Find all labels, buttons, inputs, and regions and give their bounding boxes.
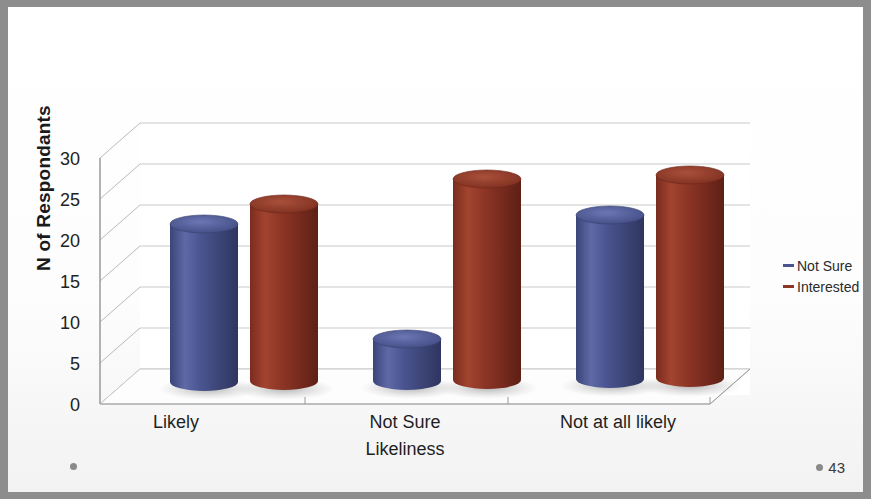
bar-series-group — [100, 117, 750, 402]
bar-likely-not-sure — [170, 215, 238, 391]
slide-canvas: N of Respondants 30 25 20 15 10 5 0 — [8, 7, 863, 492]
bullet-icon — [816, 464, 823, 471]
slide-background: N of Respondants 30 25 20 15 10 5 0 — [0, 0, 871, 499]
legend-label-interested: Interested — [797, 279, 859, 295]
y-tick-label-10: 10 — [40, 313, 80, 334]
plot-area — [100, 117, 750, 402]
legend-swatch-not-sure — [783, 264, 794, 267]
legend-item-interested: Interested — [783, 276, 859, 297]
x-tick-label-not-sure: Not Sure — [295, 412, 515, 433]
decorative-dot — [70, 463, 77, 470]
legend-swatch-interested — [783, 285, 794, 288]
chart-legend: Not Sure Interested — [783, 255, 859, 297]
y-tick-label-25: 25 — [40, 190, 80, 211]
bar-chart: N of Respondants 30 25 20 15 10 5 0 — [8, 7, 863, 492]
slide-number-value: 43 — [828, 459, 845, 476]
y-tick-label-30: 30 — [40, 149, 80, 170]
y-tick-label-5: 5 — [40, 354, 80, 375]
x-tick-label-likely: Likely — [66, 412, 286, 433]
legend-label-not-sure: Not Sure — [797, 258, 852, 274]
bar-not-at-all-likely-interested — [656, 166, 724, 387]
y-tick-label-20: 20 — [40, 231, 80, 252]
x-axis-title: Likeliness — [295, 439, 515, 460]
slide-number: 43 — [816, 459, 845, 476]
bar-not-sure-interested — [453, 170, 521, 389]
bar-likely-interested — [250, 195, 318, 390]
bar-not-at-all-likely-not-sure — [576, 206, 644, 388]
y-tick-label-15: 15 — [40, 272, 80, 293]
legend-item-not-sure: Not Sure — [783, 255, 859, 276]
bar-not-sure-not-sure — [373, 330, 441, 390]
x-tick-label-not-at-all-likely: Not at all likely — [508, 412, 728, 433]
